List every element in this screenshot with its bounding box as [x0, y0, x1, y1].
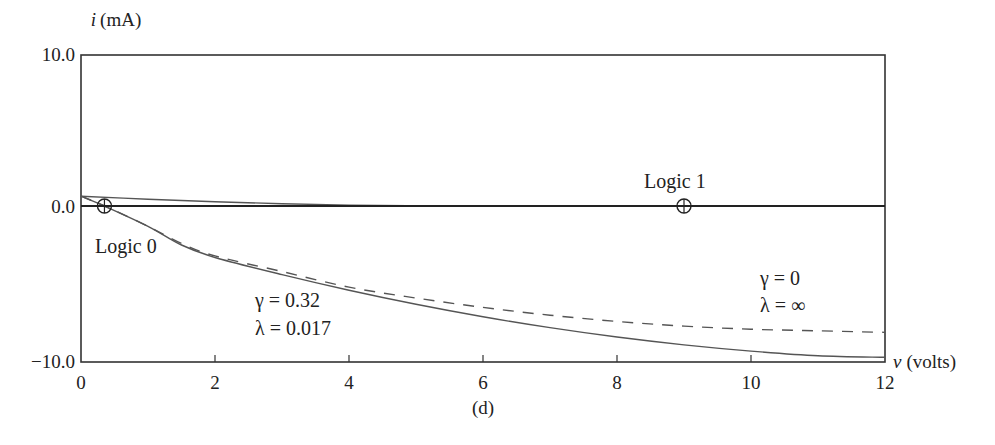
x-tick-label: 0 [76, 372, 86, 393]
curve-solid [81, 196, 885, 206]
y-tick-label-top: 10.0 [42, 44, 75, 65]
logic-0-point-icon [97, 199, 111, 213]
x-tick-label: 4 [344, 372, 354, 393]
gamma-0-label: γ = 0 [759, 267, 800, 290]
x-tick-labels: 024681012 [76, 372, 894, 393]
x-tick-label: 10 [742, 372, 761, 393]
x-tick-label: 2 [210, 372, 220, 393]
logic-1-point-icon [677, 199, 691, 213]
y-tick-label-zero: 0.0 [51, 196, 75, 217]
logic-1-label: Logic 1 [644, 170, 706, 193]
x-axis-ticks [215, 355, 751, 362]
x-axis-title: v(volts) [893, 351, 956, 373]
lambda-infinity-label: λ = ∞ [760, 294, 805, 316]
y-tick-label-bottom: −10.0 [31, 351, 75, 372]
logic-0-label: Logic 0 [95, 235, 157, 258]
chart: i(mA) 10.0 0.0 −10.0 024681012 v(volts) … [0, 0, 995, 445]
figure-caption: (d) [472, 397, 494, 419]
x-tick-label: 8 [612, 372, 622, 393]
y-axis-title: i(mA) [91, 9, 141, 31]
x-tick-label: 6 [478, 372, 488, 393]
lambda-0.017-label: λ = 0.017 [255, 317, 331, 339]
x-tick-label: 12 [876, 372, 895, 393]
gamma-0.32-label: γ = 0.32 [254, 289, 320, 312]
